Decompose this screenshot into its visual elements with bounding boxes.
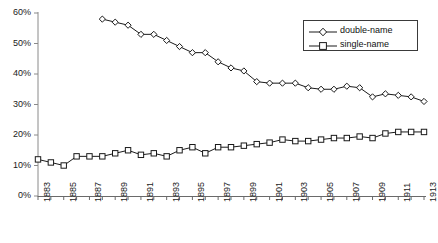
data-point-square [280, 137, 285, 142]
data-point-diamond [215, 59, 221, 65]
data-point-square [177, 148, 182, 153]
x-tick-label: 1891 [145, 182, 155, 202]
data-point-square [74, 154, 79, 159]
chart-legend: double-name single-name [303, 20, 418, 51]
data-point-square [100, 154, 105, 159]
data-point-square [215, 145, 220, 150]
data-point-square [306, 138, 311, 143]
data-point-square [138, 152, 143, 157]
data-point-diamond [267, 80, 273, 86]
data-point-square [254, 141, 259, 146]
x-tick-label: 1911 [402, 183, 412, 202]
data-point-diamond [369, 94, 375, 100]
legend-item-double-name: double-name [304, 22, 417, 37]
x-tick-label: 1897 [222, 182, 232, 202]
legend-label-single-name: single-name [340, 39, 389, 49]
data-point-square [87, 154, 92, 159]
series-single-name [35, 129, 426, 168]
data-point-square [164, 154, 169, 159]
x-tick-label: 1909 [377, 182, 387, 202]
data-point-square [396, 129, 401, 134]
y-tick-label: 30% [0, 99, 31, 109]
data-point-diamond [112, 19, 118, 25]
data-point-square [267, 140, 272, 145]
data-point-square [48, 160, 53, 165]
data-point-diamond [189, 50, 195, 56]
data-point-diamond [138, 31, 144, 37]
data-point-diamond [125, 22, 131, 28]
data-point-diamond [228, 65, 234, 71]
data-point-square [151, 151, 156, 156]
x-tick-label: 1907 [351, 182, 361, 202]
data-point-diamond [382, 91, 388, 97]
data-point-diamond [176, 43, 182, 49]
data-point-square [370, 135, 375, 140]
x-tick-label: 1895 [196, 182, 206, 202]
data-point-square [228, 145, 233, 150]
y-tick-label: 50% [0, 38, 31, 48]
data-point-square [344, 135, 349, 140]
data-point-diamond [421, 98, 427, 104]
data-point-diamond [151, 31, 157, 37]
x-tick-label: 1899 [248, 182, 258, 202]
legend-marker-square-icon [308, 38, 338, 50]
data-point-square [293, 138, 298, 143]
data-point-diamond [202, 50, 208, 56]
data-point-diamond [331, 86, 337, 92]
data-point-diamond [305, 85, 311, 91]
legend-label-double-name: double-name [340, 25, 393, 35]
y-tick-label: 0% [0, 190, 31, 200]
x-tick-label: 1913 [428, 182, 438, 202]
data-point-diamond [357, 85, 363, 91]
data-point-square [408, 129, 413, 134]
y-tick-label: 60% [0, 7, 31, 17]
data-point-square [421, 129, 426, 134]
y-axis-ticks [34, 13, 38, 196]
x-tick-label: 1889 [119, 182, 129, 202]
data-point-diamond [344, 83, 350, 89]
data-point-square [203, 151, 208, 156]
data-point-diamond [99, 16, 105, 22]
x-tick-label: 1887 [93, 182, 103, 202]
data-point-square [241, 143, 246, 148]
data-point-diamond [318, 86, 324, 92]
data-point-square [383, 131, 388, 136]
x-tick-label: 1893 [171, 182, 181, 202]
data-point-diamond [395, 92, 401, 98]
x-tick-label: 1903 [299, 182, 309, 202]
x-tick-label: 1901 [274, 182, 284, 202]
data-point-square [35, 157, 40, 162]
y-tick-label: 20% [0, 129, 31, 139]
data-point-square [331, 135, 336, 140]
data-point-diamond [292, 80, 298, 86]
data-point-diamond [279, 80, 285, 86]
data-point-diamond [408, 94, 414, 100]
legend-marker-diamond-icon [308, 24, 338, 36]
y-tick-label: 40% [0, 68, 31, 78]
data-point-diamond [164, 37, 170, 43]
x-tick-label: 1905 [325, 182, 335, 202]
y-tick-label: 10% [0, 160, 31, 170]
data-point-square [61, 163, 66, 168]
data-point-square [357, 134, 362, 139]
data-point-square [190, 145, 195, 150]
x-tick-label: 1885 [68, 182, 78, 202]
x-tick-label: 1883 [42, 182, 52, 202]
data-point-square [113, 151, 118, 156]
legend-item-single-name: single-name [304, 36, 417, 51]
data-point-square [318, 137, 323, 142]
data-point-square [125, 148, 130, 153]
